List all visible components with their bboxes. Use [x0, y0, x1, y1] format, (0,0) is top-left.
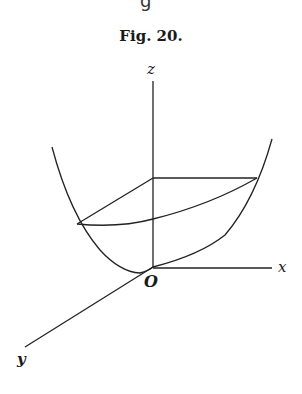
- x-axis-label: x: [278, 258, 286, 276]
- left-parabola: [52, 147, 153, 273]
- y-axis-label: y: [17, 350, 26, 368]
- y-axis: [25, 267, 153, 347]
- right-parabola: [153, 139, 272, 267]
- z-axis-label: z: [147, 60, 155, 78]
- origin-label: O: [144, 272, 158, 291]
- section-curve: [77, 178, 257, 225]
- left-top-line: [77, 178, 153, 224]
